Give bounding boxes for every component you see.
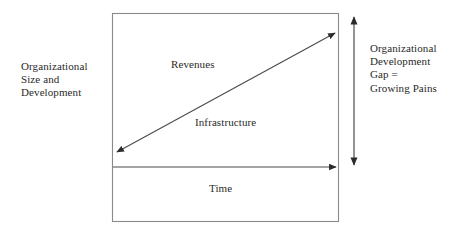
infrastructure-label: Infrastructure [195, 116, 256, 129]
growth-diagonal-arrow [117, 33, 335, 152]
revenues-label: Revenues [171, 58, 215, 71]
diagram-canvas: Organizational Size and Development Orga… [0, 0, 472, 237]
x-axis-label: Time [209, 182, 232, 195]
y-axis-label: Organizational Size and Development [21, 60, 88, 100]
gap-label: Organizational Development Gap = Growing… [370, 42, 437, 95]
